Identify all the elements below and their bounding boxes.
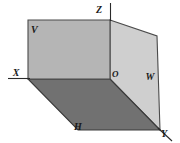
axis-label-x: X: [12, 67, 20, 78]
axis-label-z: Z: [95, 4, 102, 15]
geometry-figure: V H W X Z Y O: [0, 0, 180, 143]
axis-label-y: Y: [161, 128, 168, 139]
plane-v-vertical: [28, 20, 110, 79]
plane-label-w: W: [146, 71, 156, 82]
origin-label: O: [112, 69, 119, 79]
projection-planes-drawing: V H W X Z Y O: [0, 0, 180, 143]
plane-label-h: H: [73, 121, 83, 132]
